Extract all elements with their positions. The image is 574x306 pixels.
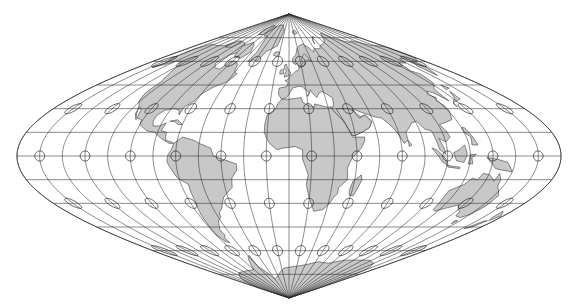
map-background — [0, 0, 574, 306]
sinusoidal-world-map — [0, 0, 574, 306]
